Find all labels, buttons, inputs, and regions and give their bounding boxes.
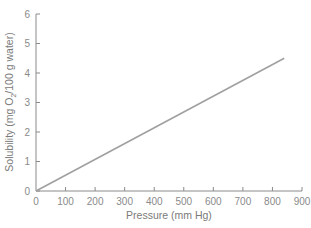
y-axis: 0123456	[24, 9, 40, 197]
y-tick-label: 0	[24, 186, 30, 197]
x-tick-label: 800	[264, 196, 281, 207]
x-tick-label: 600	[205, 196, 222, 207]
x-axis-title: Pressure (mm Hg)	[126, 209, 212, 221]
y-tick-label: 4	[24, 68, 30, 79]
x-tick-label: 700	[235, 196, 252, 207]
y-tick-label: 1	[24, 156, 30, 167]
y-tick-label: 2	[24, 127, 30, 138]
x-tick-label: 0	[33, 196, 39, 207]
x-axis: 0100200300400500600700800900	[33, 187, 311, 207]
chart: 0123456 0100200300400500600700800900 Pre…	[0, 0, 311, 228]
y-tick-label: 3	[24, 97, 30, 108]
data-line	[36, 58, 284, 191]
x-tick-label: 500	[175, 196, 192, 207]
y-axis-title-part2: /100 g water)	[3, 32, 15, 93]
x-tick-label: 100	[57, 196, 74, 207]
y-tick-label: 6	[24, 9, 30, 20]
y-axis-title: Solubility (mg O2/100 g water)	[3, 32, 17, 171]
plot-area	[36, 58, 284, 191]
x-tick-label: 300	[116, 196, 133, 207]
y-tick-label: 5	[24, 38, 30, 49]
x-tick-label: 200	[87, 196, 104, 207]
x-tick-label: 400	[146, 196, 163, 207]
x-tick-label: 900	[294, 196, 311, 207]
y-axis-title-part1: Solubility (mg O	[3, 98, 15, 172]
